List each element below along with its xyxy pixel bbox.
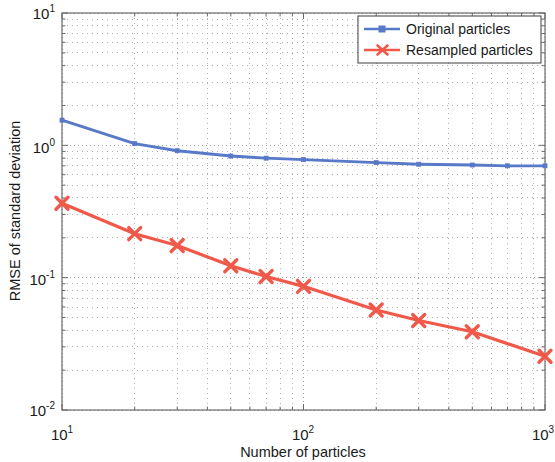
- chart-legend[interactable]: Original particles Resampled particles: [358, 16, 541, 63]
- data-point-marker: [506, 164, 510, 168]
- data-point-marker: [374, 161, 378, 165]
- data-point-marker: [417, 162, 421, 166]
- legend-label-resampled: Resampled particles: [406, 42, 533, 58]
- data-point-marker: [543, 164, 547, 168]
- y-axis-title: RMSE of standard deviation: [7, 121, 23, 302]
- legend-label-original: Original particles: [406, 21, 510, 37]
- data-point-marker: [470, 163, 474, 167]
- plot-area-background: [62, 13, 545, 410]
- rmse-vs-particles-chart: 101 102 103 101 100 10-1 10-2: [0, 0, 555, 462]
- x-axis-title: Number of particles: [240, 444, 366, 460]
- data-point-marker: [60, 118, 64, 122]
- data-point-marker: [229, 154, 233, 158]
- data-point-marker: [264, 156, 268, 160]
- figure-container: 101 102 103 101 100 10-1 10-2: [0, 0, 555, 462]
- legend-marker-square-icon: [379, 26, 385, 32]
- data-point-marker: [302, 158, 306, 162]
- data-point-marker: [133, 142, 137, 146]
- data-point-marker: [175, 149, 179, 153]
